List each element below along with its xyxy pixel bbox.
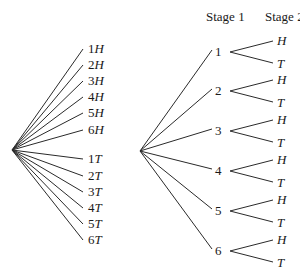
outcome-label: 4H [88,89,105,104]
stage-2-outcome-t: T [277,135,285,150]
left-branch-line [12,150,83,192]
stage-1-branch-line [140,50,212,151]
stage-2-header: Stage 2 [265,9,300,24]
outcome-label: 3T [88,184,103,199]
stage-2-outcome-t: T [277,255,285,270]
stage-2-outcome-t: T [277,215,285,230]
outcome-label: 5H [88,105,105,120]
stage-2-branch-line-h [230,120,273,131]
right-two-stage-tree: Stage 1 Stage 2 1HT2HT3HT4HT5HT6HT [140,9,300,270]
stage-1-branch-line [140,89,212,151]
outcome-label: 2T [88,168,103,183]
outcome-label: 5T [88,216,103,231]
stage-1-branch-line [140,129,212,151]
left-branch-line [12,49,83,150]
left-single-stage-tree: 1H2H3H4H5H6H1T2T3T4T5T6T [12,41,105,247]
stage-1-node-label: 3 [215,123,222,138]
stage-2-outcome-h: H [276,72,287,87]
stage-2-outcome-t: T [277,95,285,110]
left-branch-line [12,113,83,150]
stage-2-branch-line-h [230,200,273,211]
outcome-label: 6T [88,232,103,247]
stage-2-branch-line-h [230,41,273,52]
outcome-label: 6H [88,122,105,137]
stage-2-branch-line-t [230,211,273,222]
left-branch-line [12,97,83,150]
stage-1-node-label: 1 [215,44,222,59]
stage-2-outcome-h: H [276,192,287,207]
outcome-label: 3H [88,73,105,88]
stage-1-header: Stage 1 [206,9,245,24]
stage-2-outcome-h: H [276,112,287,127]
stage-2-branch-line-h [230,160,273,171]
stage-2-outcome-h: H [276,232,287,247]
tree-diagram-svg: 1H2H3H4H5H6H1T2T3T4T5T6T Stage 1 Stage 2… [0,0,300,271]
stage-2-outcome-t: T [277,56,285,71]
left-branch-line [12,150,83,224]
tree-diagram-figure: 1H2H3H4H5H6H1T2T3T4T5T6T Stage 1 Stage 2… [0,0,300,271]
stage-2-branch-line-t [230,52,273,63]
stage-2-branch-line-t [230,131,273,142]
outcome-label: 2H [88,57,105,72]
stage-1-node-label: 2 [215,83,222,98]
stage-2-outcome-h: H [276,152,287,167]
left-branch-line [12,150,83,208]
stage-2-branch-line-t [230,171,273,182]
stage-2-outcome-h: H [276,33,287,48]
outcome-label: 4T [88,200,103,215]
stage-2-branch-line-h [230,80,273,91]
outcome-label: 1T [88,151,103,166]
stage-2-branch-line-t [230,251,273,262]
stage-1-node-label: 6 [215,243,222,258]
stage-1-node-label: 5 [215,203,222,218]
stage-1-node-label: 4 [215,163,222,178]
left-branch-line [12,150,83,159]
stage-2-branch-line-t [230,91,273,102]
stage-2-outcome-t: T [277,175,285,190]
outcome-label: 1H [88,41,105,56]
left-branch-line [12,65,83,150]
stage-2-branch-line-h [230,240,273,251]
